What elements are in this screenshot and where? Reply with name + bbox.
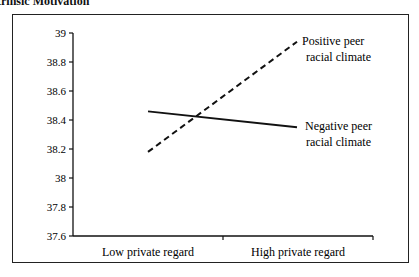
x-label-high: High private regard <box>251 245 345 259</box>
y-ticks: 3938.838.638.438.23837.837.6 <box>47 27 73 242</box>
y-tick-label: 38.6 <box>47 85 67 97</box>
y-tick-label: 38.8 <box>47 56 67 68</box>
legend-positive-line1: Positive peer <box>302 34 364 48</box>
series-negative-peer-line <box>148 111 297 127</box>
y-tick-label: 39 <box>55 27 67 39</box>
series-positive-peer-line <box>148 42 297 152</box>
y-tick-label: 38.4 <box>47 114 67 126</box>
legend-negative-line1: Negative peer <box>305 119 372 133</box>
x-label-low: Low private regard <box>102 245 194 259</box>
y-tick-label: 38.2 <box>47 143 66 155</box>
y-tick-label: 37.8 <box>47 201 67 213</box>
legend-positive-line2: racial climate <box>306 50 371 64</box>
y-tick-label: 38 <box>55 172 67 184</box>
legend-negative-line2: racial climate <box>306 135 371 149</box>
line-chart: 3938.838.638.438.23837.837.6 Low private… <box>0 0 419 277</box>
y-tick-label: 37.6 <box>47 230 67 242</box>
